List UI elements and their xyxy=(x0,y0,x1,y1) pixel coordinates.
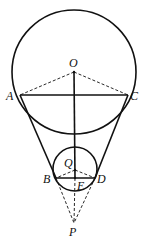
tangent-CD xyxy=(95,95,128,178)
label-P: P xyxy=(68,225,77,237)
label-C: C xyxy=(130,89,139,103)
point-O-dot xyxy=(73,71,75,73)
label-E: E xyxy=(76,179,85,193)
label-D: D xyxy=(96,172,106,186)
label-A: A xyxy=(5,89,14,103)
radius-OC xyxy=(74,72,128,95)
segment-OE xyxy=(74,72,75,178)
tangent-AB xyxy=(20,95,56,178)
segment-EP xyxy=(74,178,75,223)
radius-QB xyxy=(56,170,75,178)
radius-QD xyxy=(75,170,95,178)
radius-OA xyxy=(20,72,74,95)
geometry-diagram: O A C Q B D E P xyxy=(0,0,147,237)
segment-BP xyxy=(56,178,74,223)
point-E-dot xyxy=(74,177,76,179)
label-B: B xyxy=(43,172,51,186)
point-Q-dot xyxy=(74,169,76,171)
label-Q: Q xyxy=(64,156,73,170)
label-O: O xyxy=(69,56,78,70)
